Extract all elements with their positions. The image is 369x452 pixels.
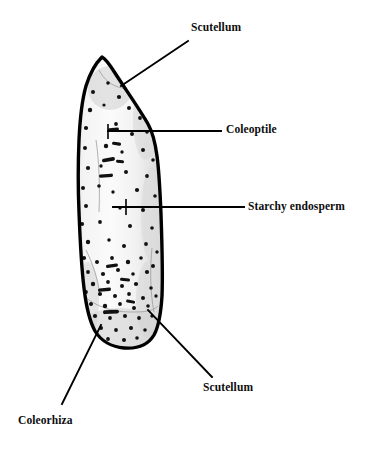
seed-diagram-svg xyxy=(0,0,369,452)
seed-diagram-figure: Scutellum Coleoptile Starchy endosperm S… xyxy=(0,0,369,452)
leader-scutellum-bottom xyxy=(148,310,212,377)
leader-scutellum-top xyxy=(121,41,188,86)
label-scutellum-bottom: Scutellum xyxy=(203,382,253,394)
label-coleoptile: Coleoptile xyxy=(226,124,277,136)
leader-coleorhiza xyxy=(62,325,101,404)
label-coleorhiza: Coleorhiza xyxy=(18,415,73,427)
label-scutellum-top: Scutellum xyxy=(191,22,241,34)
label-starchy-endosperm: Starchy endosperm xyxy=(248,201,345,213)
